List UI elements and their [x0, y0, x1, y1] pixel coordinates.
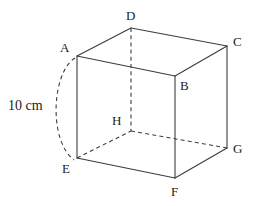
edge-E-F [77, 158, 175, 178]
vertex-label-B: B [180, 79, 189, 92]
cube-solid-edges [77, 28, 227, 178]
vertex-label-G: G [233, 142, 242, 155]
measurement-arc [56, 58, 75, 160]
edge-E-H [77, 131, 131, 158]
edge-H-G [131, 131, 227, 148]
cube-hidden-edges [77, 28, 227, 158]
edge-B-C [175, 46, 227, 76]
measurement-label: 10 cm [8, 99, 43, 113]
vertex-label-A: A [60, 41, 69, 54]
vertex-label-C: C [233, 35, 242, 48]
vertex-label-F: F [171, 185, 178, 198]
edge-D-C [131, 28, 227, 46]
edge-A-D [77, 28, 131, 56]
vertex-label-D: D [126, 9, 135, 22]
vertex-label-H: H [112, 114, 121, 127]
edge-A-B [77, 56, 175, 76]
vertex-label-E: E [62, 162, 70, 175]
edge-F-G [175, 148, 227, 178]
cube-diagram: 10 cm A B C D E F G H [0, 0, 257, 206]
